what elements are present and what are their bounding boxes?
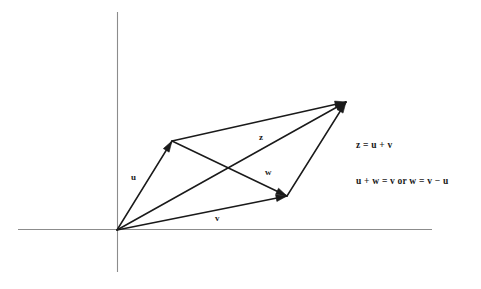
vector-u-arrowhead: [163, 141, 172, 152]
vector-diagram-canvas: u v z w: [0, 0, 481, 289]
vector-w-arrowhead: [276, 188, 287, 196]
vector-u-line: [117, 141, 172, 230]
vector-label-v: v: [215, 213, 220, 223]
vector-label-u: u: [131, 172, 136, 182]
vector-label-w: w: [265, 167, 272, 177]
vector-z-line: [117, 102, 346, 230]
parallelogram-right-edge: [287, 102, 346, 196]
equation-w-definition: u + w = v or w = v − u: [356, 176, 448, 186]
vector-diagram: u v z w z = u + v u + w = v or w = v − u: [0, 0, 481, 289]
vector-label-z: z: [259, 132, 263, 142]
vector-v-line: [117, 196, 287, 230]
equation-z-definition: z = u + v: [356, 140, 392, 150]
